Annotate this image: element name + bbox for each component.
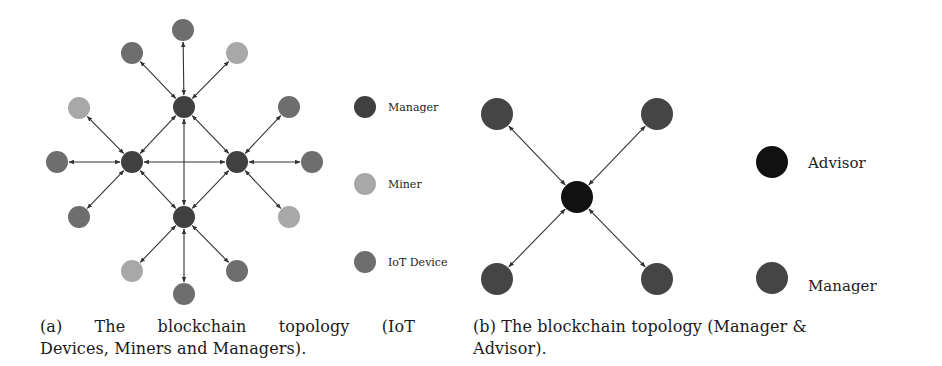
iot-node (68, 206, 90, 228)
manager-node (173, 96, 195, 118)
edge-advisor-mgr_tl (509, 126, 565, 185)
manager-node (641, 263, 673, 295)
caption-b-line2: Advisor). (473, 338, 873, 360)
legend-iot-swatch (354, 251, 376, 273)
iot-node (173, 283, 195, 305)
iot-node (46, 151, 68, 173)
iot-node (226, 260, 248, 282)
miner-node (121, 260, 143, 282)
caption-a-line1: (a) The blockchain topology (IoT (40, 316, 415, 338)
legend-manager-label: Manager (808, 277, 877, 295)
legend-miner-swatch (354, 173, 376, 195)
edge-m_left-n8 (87, 171, 123, 209)
iot-node (121, 42, 143, 64)
edge-m_bottom-n10 (140, 226, 175, 263)
legend-advisor-swatch (756, 146, 788, 178)
figure-canvas: ManagerMinerIoT Device AdvisorManager (0, 0, 942, 366)
legend-manager-label: Manager (388, 101, 439, 114)
diagram-a-legend: ManagerMinerIoT Device (354, 96, 448, 273)
legend-manager-swatch (354, 96, 376, 118)
manager-node (226, 151, 248, 173)
edge-m_right-n9 (245, 171, 281, 209)
edge-m_top-n2 (140, 62, 175, 99)
legend-manager-swatch (756, 262, 788, 294)
edge-m_top-m_left (140, 116, 176, 154)
diagram-b-topology: AdvisorManager (481, 98, 877, 295)
edge-m_bottom-n11 (192, 226, 228, 263)
miner-node (68, 97, 90, 119)
diagram-a-edges (69, 42, 300, 282)
edge-advisor-mgr_br (589, 209, 645, 267)
legend-advisor-label: Advisor (807, 154, 866, 172)
edge-m_right-m_bottom (192, 171, 228, 209)
miner-node (226, 42, 248, 64)
advisor-node (561, 181, 593, 213)
manager-node (481, 263, 513, 295)
miner-node (278, 206, 300, 228)
iot-node (301, 151, 323, 173)
edge-m_right-n5 (245, 116, 281, 154)
manager-node (173, 206, 195, 228)
edge-advisor-mgr_tr (589, 126, 645, 185)
edge-m_top-n3 (192, 62, 228, 99)
iot-node (278, 96, 300, 118)
edge-m_top-m_right (192, 116, 228, 154)
caption-a-line2: Devices, Miners and Managers). (40, 338, 415, 360)
caption-b: (b) The blockchain topology (Manager & A… (473, 316, 873, 360)
manager-node (121, 151, 143, 173)
diagram-b-legend: AdvisorManager (756, 146, 877, 295)
caption-b-line1: (b) The blockchain topology (Manager & (473, 316, 873, 338)
caption-a: (a) The blockchain topology (IoT Devices… (40, 316, 415, 360)
edge-m_left-n4 (87, 117, 123, 154)
edge-m_left-m_bottom (140, 171, 176, 209)
diagram-a-topology: ManagerMinerIoT Device (46, 19, 448, 305)
legend-miner-label: Miner (388, 178, 422, 191)
legend-iot-label: IoT Device (388, 256, 448, 269)
manager-node (481, 98, 513, 130)
edge-m_top-n1 (183, 42, 184, 95)
edge-advisor-mgr_bl (509, 209, 565, 267)
manager-node (641, 98, 673, 130)
iot-node (172, 19, 194, 41)
